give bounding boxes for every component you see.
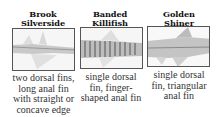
description-line: shaped anal fin <box>76 93 146 104</box>
description-line: concave edge <box>0 105 87 116</box>
description-line: anal fin <box>146 91 212 102</box>
description-line: single dorsal <box>146 70 212 81</box>
description-line: two dorsal fins, <box>0 73 87 84</box>
description-line: single dorsal <box>76 72 146 83</box>
fish-description: two dorsal fins, long anal fin with stra… <box>0 73 87 115</box>
golden-shiner-image <box>147 26 210 67</box>
description-line: with straight or <box>0 94 87 105</box>
fish-name-line-2: Silverside <box>0 19 86 28</box>
brook-silverside-image <box>12 28 75 71</box>
fish-description: single dorsal fin, triangular anal fin <box>146 70 212 102</box>
fish-description: single dorsal fin, finger- shaped anal f… <box>76 72 146 104</box>
fish-name: Brook Silverside <box>0 10 86 28</box>
banded-killifish-image <box>80 27 143 69</box>
fish-name: Banded Killifish <box>75 10 145 28</box>
